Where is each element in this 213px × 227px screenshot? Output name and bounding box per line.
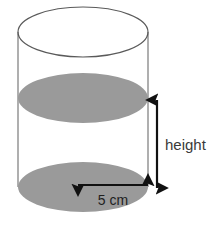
diameter-label: 5 cm [98, 192, 128, 208]
figure-canvas: height 5 cm [0, 0, 213, 227]
cylinder-figure: height 5 cm [0, 0, 213, 227]
height-label: height [165, 136, 207, 153]
middle-ellipse [18, 73, 148, 123]
bottom-ellipse [18, 162, 148, 212]
top-ellipse [18, 7, 148, 57]
